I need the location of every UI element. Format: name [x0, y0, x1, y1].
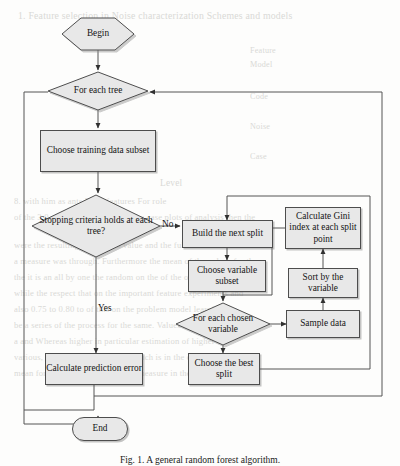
- choose-the-best-split-label: Choose the best split: [189, 358, 259, 381]
- choose-variable-subset-node[interactable]: Choose variable subset: [188, 260, 266, 292]
- for-each-tree-node-label: For each tree: [74, 85, 123, 96]
- figure-caption: Fig. 1. A general random forest algorith…: [0, 455, 400, 465]
- sample-data-node[interactable]: Sample data: [286, 310, 360, 338]
- calculate-gini-index-node[interactable]: Calculate Gini index at each split point: [285, 207, 361, 249]
- build-the-next-split-label: Build the next split: [192, 228, 263, 239]
- sample-data-label: Sample data: [300, 318, 346, 329]
- sort-by-the-variable-node[interactable]: Sort by the variable: [288, 268, 358, 298]
- build-the-next-split-node[interactable]: Build the next split: [182, 220, 273, 248]
- choose-training-data-subset-label: Choose training data subset: [47, 145, 150, 156]
- choose-variable-subset-label: Choose variable subset: [189, 265, 265, 288]
- stopping-criteria-node[interactable]: Stopping criteria holds at each tree?: [34, 200, 158, 252]
- figure-page: 1. Feature selection in Noise characteri…: [0, 0, 400, 466]
- edge-label-no: No: [162, 219, 173, 229]
- for-each-tree-node[interactable]: For each tree: [48, 72, 148, 110]
- for-each-chosen-variable-node[interactable]: For each chosen variable: [178, 305, 268, 343]
- end-node[interactable]: End: [72, 417, 128, 441]
- end-node-label: End: [93, 423, 108, 434]
- choose-training-data-subset-node[interactable]: Choose training data subset: [40, 130, 156, 172]
- sort-by-the-variable-label: Sort by the variable: [289, 272, 357, 295]
- begin-node-label: Begin: [87, 28, 109, 39]
- choose-the-best-split-node[interactable]: Choose the best split: [188, 353, 260, 385]
- edge-label-yes: Yes: [98, 303, 112, 313]
- calculate-prediction-error-label: Calculate prediction error: [46, 363, 142, 374]
- begin-node[interactable]: Begin: [62, 18, 134, 50]
- calculate-gini-index-label: Calculate Gini index at each split point: [286, 211, 360, 245]
- calculate-prediction-error-node[interactable]: Calculate prediction error: [45, 353, 143, 385]
- for-each-chosen-variable-label: For each chosen variable: [178, 313, 268, 336]
- stopping-criteria-label: Stopping criteria holds at each tree?: [34, 215, 158, 238]
